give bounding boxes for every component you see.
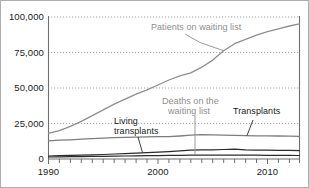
y-tick-label-100000: 100,000	[1, 11, 44, 22]
x-tick-label-1990: 1990	[25, 166, 72, 177]
series-line-transplants	[49, 135, 300, 141]
leader-line-transplants	[247, 120, 253, 136]
annotation-deaths-on-waiting-list-line1: Deaths on the	[162, 96, 219, 107]
clipped-caption-strip	[1, 180, 309, 187]
y-tick-label-50000: 50,000	[1, 82, 44, 93]
leader-line-living-transplants	[138, 137, 143, 153]
x-tick-label-2000: 2000	[135, 166, 182, 177]
annotation-transplants: Transplants	[233, 106, 280, 117]
x-tick-label-2010: 2010	[244, 166, 291, 177]
x-axis-ticks	[49, 159, 300, 164]
annotation-patients-on-waiting-list: Patients on waiting list	[151, 22, 241, 33]
series-line-patients-on-waiting-list	[49, 24, 300, 133]
axis-lines	[48, 16, 300, 159]
y-tick-label-0: 0	[1, 153, 44, 164]
y-tick-label-75000: 75,000	[1, 47, 44, 58]
y-tick-label-25000: 25,000	[1, 118, 44, 129]
chart-figure: 100,000 75,000 50,000 25,000 0 1990 2000…	[0, 0, 309, 188]
annotation-living-transplants-line2: transplants	[114, 126, 159, 137]
leader-line-patients-on-waiting-list	[185, 34, 223, 51]
annotation-living-transplants-line1: Living	[114, 116, 138, 127]
annotation-deaths-on-waiting-list-line2: waiting list	[168, 106, 210, 117]
